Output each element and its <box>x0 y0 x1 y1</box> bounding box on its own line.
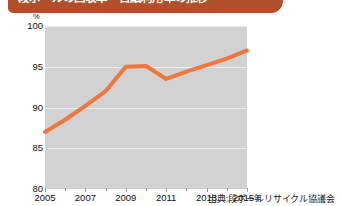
x-axis-minor-tick-mark <box>65 188 66 191</box>
x-axis-minor-tick-mark <box>45 188 46 191</box>
y-axis-tick-labels: 10095908580 <box>0 26 43 189</box>
x-axis-tick-label: 2011 <box>156 192 176 203</box>
chart-title-banner: 段ボールの回収率・古紙利用率の推移 <box>8 0 283 13</box>
x-axis-minor-tick-mark <box>126 188 127 191</box>
x-axis-minor-tick-mark <box>227 188 228 191</box>
x-axis-tick-label: 2007 <box>75 192 96 203</box>
chart-title-text: 段ボールの回収率・古紙利用率の推移 <box>18 0 278 5</box>
x-axis-minor-tick-mark <box>207 188 208 191</box>
x-axis-minor-tick-mark <box>106 188 107 191</box>
x-axis-minor-tick-mark <box>85 188 86 191</box>
plot-area <box>45 26 247 189</box>
y-axis-tick-label: 90 <box>1 103 43 112</box>
x-axis-minor-tick-mark <box>166 188 167 191</box>
x-axis-minor-tick-mark <box>247 188 248 191</box>
x-axis-tick-label: 2009 <box>115 192 136 203</box>
series-recovery-rate-line <box>45 26 247 189</box>
x-axis-minor-tick-mark <box>146 188 147 191</box>
x-axis-tick-label: 2005 <box>34 192 55 203</box>
y-axis-tick-label: 100 <box>1 21 43 30</box>
x-axis-minor-tick-mark <box>186 188 187 191</box>
line-chart: % 10095908580 200520072009201120132015年 <box>0 14 341 192</box>
source-attribution: 出典:段ボールリサイクル協議会 <box>208 192 335 205</box>
series-polyline <box>45 50 247 132</box>
y-axis-tick-label: 85 <box>1 143 43 152</box>
y-axis-tick-label: 95 <box>1 62 43 71</box>
